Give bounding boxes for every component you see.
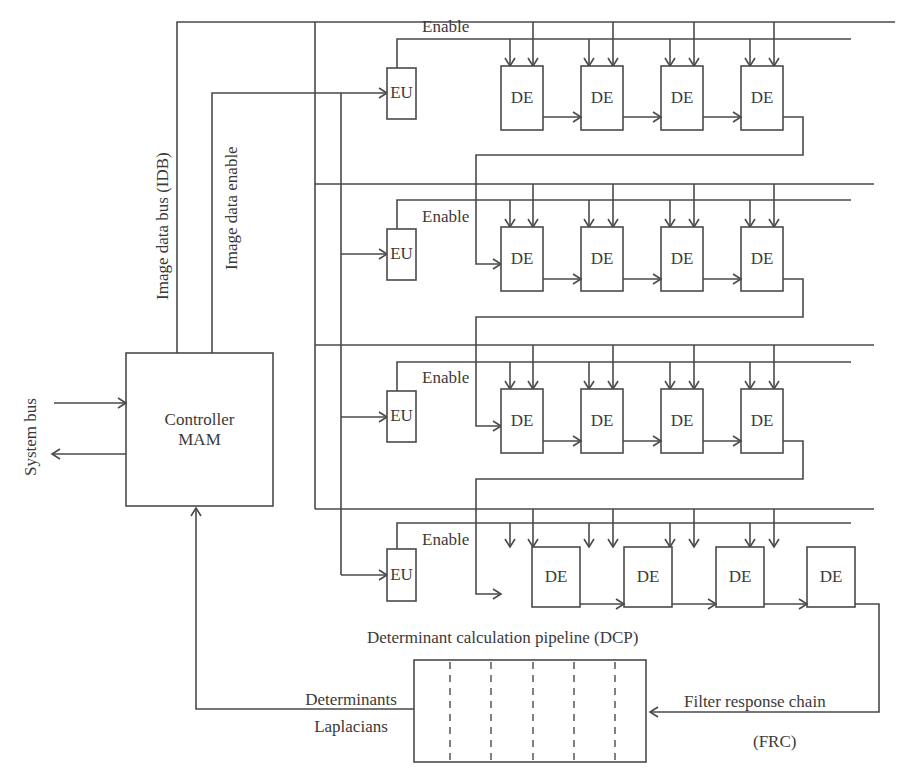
pipeline-box [414, 660, 646, 762]
determinants-label: Determinants [301, 691, 401, 708]
de-label: DE [581, 389, 623, 453]
frc-label: (FRC) [753, 733, 796, 750]
pipeline-title: Determinant calculation pipeline (DCP) [367, 629, 638, 646]
row-4 [387, 509, 855, 607]
de-label: DE [581, 227, 623, 291]
controller-label: Controller MAM [126, 405, 273, 455]
image-data-enable-label: Image data enable [223, 146, 240, 270]
enable-label: Enable [422, 531, 469, 548]
laplacians-label: Laplacians [301, 718, 401, 735]
de-label: DE [501, 389, 543, 453]
system-bus-label: System bus [22, 398, 39, 476]
eu-label: EU [387, 391, 416, 442]
de-label: DE [501, 66, 543, 130]
de-label: DE [532, 547, 580, 607]
de-label: DE [741, 66, 783, 130]
de-label: DE [501, 227, 543, 291]
eu-label: EU [387, 68, 416, 119]
filter-response-chain-label: Filter response chain [684, 693, 826, 710]
eu-label: EU [387, 549, 416, 601]
de-label: DE [661, 227, 703, 291]
enable-label: Enable [422, 208, 469, 225]
de-label: DE [661, 389, 703, 453]
eu-label: EU [387, 229, 416, 280]
de-label: DE [581, 66, 623, 130]
de-label: DE [741, 389, 783, 453]
de-label: DE [807, 547, 855, 607]
de-label: DE [661, 66, 703, 130]
de-label: DE [624, 547, 672, 607]
enable-bus [397, 39, 851, 68]
results-arrow [196, 508, 414, 709]
image-data-bus-label: Image data bus (IDB) [154, 152, 171, 300]
de-label: DE [741, 227, 783, 291]
enable-label: Enable [422, 18, 469, 35]
enable-label: Enable [422, 369, 469, 386]
de-label: DE [716, 547, 764, 607]
